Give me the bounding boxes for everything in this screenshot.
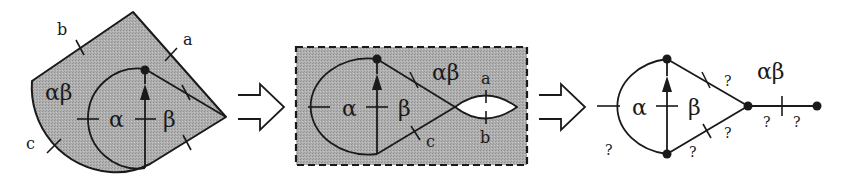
right-junction-node	[744, 102, 753, 111]
right-bottom-node	[663, 150, 672, 159]
right-end-node	[813, 102, 822, 111]
label-a: a	[481, 69, 491, 88]
label-unknown-tail-right: ?	[793, 114, 801, 130]
label-unknown-upper: ?	[724, 73, 732, 89]
right-arrowhead-icon	[662, 76, 672, 92]
label-alpha-beta-region: αβ	[45, 80, 73, 105]
label-alpha-beta: αβ	[757, 59, 785, 84]
left-top-node	[141, 66, 150, 75]
label-beta: β	[688, 95, 701, 120]
hollow-right-arrow-icon	[238, 84, 284, 130]
hollow-right-arrow-icon	[539, 84, 585, 130]
label-c: c	[426, 132, 435, 151]
label-alpha-beta: αβ	[432, 60, 460, 85]
label-beta: β	[398, 96, 411, 121]
label-b: b	[480, 128, 490, 147]
middle-panel: α β αβ c a b	[296, 47, 527, 165]
label-alpha: α	[632, 95, 647, 120]
right-lower-edge	[667, 106, 748, 154]
label-beta: β	[163, 107, 176, 132]
right-top-node	[663, 55, 672, 64]
label-unknown-lower-right: ?	[724, 125, 732, 141]
right-panel: α β αβ ? ? ? ? ? ?	[597, 55, 822, 161]
label-alpha: α	[109, 107, 124, 132]
label-unknown-lower-left: ?	[689, 144, 697, 160]
label-unknown-loop: ?	[605, 142, 613, 158]
label-alpha: α	[342, 96, 357, 121]
diagram-svg: b a c αβ α β α β αβ c a	[0, 0, 848, 182]
left-panel: b a c αβ α β	[26, 12, 226, 172]
label-unknown-tail-left: ?	[763, 114, 771, 130]
middle-top-node	[373, 55, 382, 64]
label-c: c	[26, 134, 35, 153]
label-b: b	[57, 20, 67, 39]
label-a: a	[183, 30, 193, 49]
diagram-canvas: b a c αβ α β α β αβ c a	[0, 0, 848, 182]
